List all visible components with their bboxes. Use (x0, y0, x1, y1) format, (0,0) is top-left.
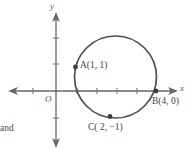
surrounding-text-fragment: and (0, 124, 14, 134)
x-axis-label: x (180, 84, 184, 93)
y-axis-label: y (50, 2, 54, 11)
circle-shape (75, 36, 157, 118)
point-c-marker (108, 114, 113, 119)
origin-label: O (45, 95, 52, 104)
point-a-label: A(1, 1) (80, 61, 107, 71)
point-a-marker (73, 65, 78, 70)
coordinate-geometry-figure: y x O A(1, 1) B(4, 0) C( 2, −1) and (0, 0, 194, 149)
point-b-marker (154, 89, 159, 94)
point-c-label: C( 2, −1) (88, 123, 123, 133)
point-b-label: B(4, 0) (152, 97, 179, 107)
